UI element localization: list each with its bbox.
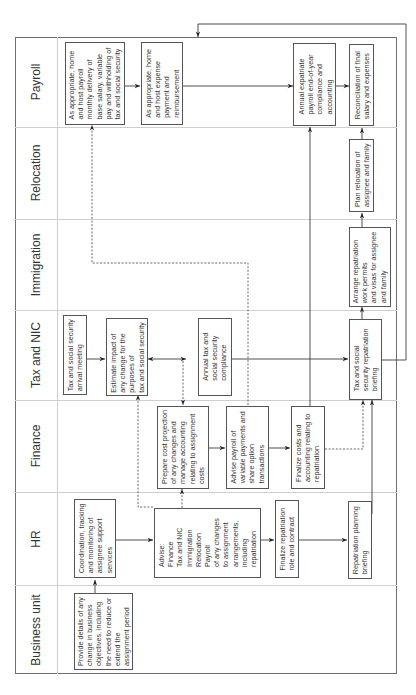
lane-divider [15, 585, 397, 586]
lane-label-payroll: Payroll [15, 37, 57, 127]
box-tax-arrival-meeting: Tax and social security arrival meeting [63, 315, 87, 395]
box-payroll-monthly-delivery: As appropriate, home and host payroll mo… [65, 42, 125, 125]
lane-divider [15, 492, 397, 493]
lane-divider [15, 127, 397, 128]
box-payroll-expense-reimbursement: As appropriate, home and host expense pa… [141, 42, 183, 125]
lane-label-tax-and-nic: Tax and NIC [15, 310, 57, 400]
lane-label-business-unit: Business unit [15, 585, 57, 674]
box-hr-coordination: Coordination, tracking and monitoring of… [74, 499, 116, 578]
box-finance-advise-payroll: Advise payroll of variable payments and … [226, 406, 269, 489]
lane-label-relocation: Relocation [15, 127, 57, 219]
box-business-provide-details: Provide details of any change in busines… [74, 593, 133, 670]
box-tax-annual-compliance: Annual tax and social security complianc… [198, 318, 232, 396]
box-payroll-annual-compliance: Annual expatriate payroll end-of-year co… [293, 43, 336, 126]
box-relocation-plan: Plan relocation of assignee and family [349, 139, 374, 212]
lane-label-finance: Finance [15, 400, 57, 492]
box-hr-repatriation-planning-briefing: Repatriation planning briefing [348, 501, 372, 579]
box-tax-estimate-impact: Estimate impact of any change for the pu… [106, 318, 148, 396]
box-payroll-reconciliation: Reconciliation of final salary and expen… [349, 44, 374, 126]
lane-label-immigration: Immigration [15, 219, 57, 310]
lane-label-hr: HR [15, 492, 57, 585]
box-hr-advise-changes: Advise: Finance Tax and NIC Immigration … [154, 508, 261, 578]
lane-header-divider [57, 37, 58, 674]
box-finance-cost-projection: Prepare cost projection of any changes a… [157, 406, 209, 489]
box-hr-finalize-repatriation-role: Finalize repatriation role and contract [275, 500, 299, 578]
swimlane-diagram: Payroll Relocation Immigration Tax and N… [0, 0, 416, 695]
box-immigration-arrange-permits: Arrange repatriation work permits and vi… [349, 227, 391, 307]
lane-divider [15, 310, 397, 311]
box-tax-repatriation-briefing: Tax and social security repatriation bri… [349, 319, 382, 400]
box-finance-finalize-costs: Finalize costs and accounting relating t… [291, 406, 325, 489]
lane-divider [15, 219, 397, 220]
lane-divider [15, 400, 397, 401]
